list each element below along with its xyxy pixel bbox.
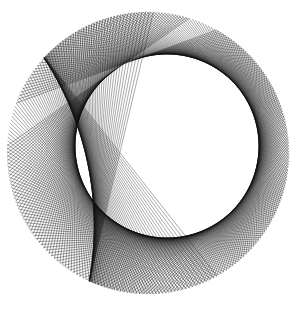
chord-lines [7,12,289,294]
string-art-figure [0,0,299,309]
